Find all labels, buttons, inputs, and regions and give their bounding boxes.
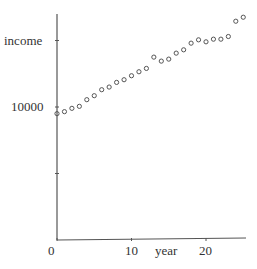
data-point	[100, 88, 104, 92]
data-point	[174, 51, 178, 55]
axes	[55, 14, 246, 241]
x-tick-label-20: 20	[199, 243, 212, 259]
data-point	[115, 80, 119, 84]
data-point	[70, 106, 74, 110]
x-axis-label: year	[155, 243, 177, 259]
data-point	[211, 37, 215, 41]
data-point	[234, 19, 238, 23]
data-point	[107, 85, 111, 89]
data-point	[144, 66, 148, 70]
data-point	[219, 37, 223, 41]
data-point	[241, 15, 245, 19]
x-axis-line	[57, 238, 246, 240]
data-point	[92, 94, 96, 98]
x-origin-label: 0	[48, 243, 55, 259]
data-point	[226, 34, 230, 38]
data-point	[152, 55, 156, 59]
data-point	[77, 104, 81, 108]
data-point	[189, 41, 193, 45]
data-points	[55, 15, 245, 116]
data-point	[129, 74, 133, 78]
x-tick-label-10: 10	[125, 243, 138, 259]
data-point	[196, 38, 200, 42]
data-point	[204, 40, 208, 44]
data-point	[159, 59, 163, 63]
data-point	[85, 98, 89, 102]
y-axis-label: income	[4, 33, 42, 49]
data-point	[122, 78, 126, 82]
data-point	[167, 57, 171, 61]
data-point	[182, 48, 186, 52]
data-point	[62, 110, 66, 114]
y-tick-label-10000: 10000	[11, 99, 44, 115]
data-point	[137, 70, 141, 74]
